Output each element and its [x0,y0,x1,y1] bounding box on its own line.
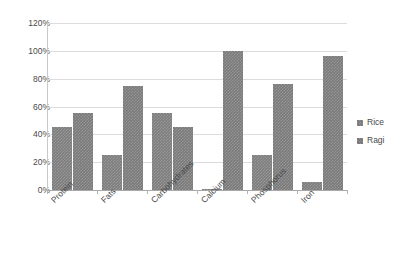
x-tick [347,190,348,194]
gridline [47,79,347,80]
y-tick-label: 0% [4,186,50,195]
chart-legend: RiceRagi [357,118,384,154]
gridline [47,107,347,108]
y-tick-label: 20% [4,158,50,167]
y-tick-label: 40% [4,130,50,139]
legend-swatch-icon [357,138,363,144]
legend-swatch-icon [357,120,363,126]
bar-ragi-calcium [223,51,243,190]
y-tick-label: 100% [4,47,50,56]
x-tick [147,190,148,194]
plot-area [47,23,347,190]
x-tick [197,190,198,194]
y-tick-label: 60% [4,103,50,112]
legend-label: Rice [367,118,384,127]
bar-ragi-protein [73,113,93,190]
y-axis-line [47,23,48,190]
x-tick [297,190,298,194]
y-tick-label: 120% [4,19,50,28]
legend-label: Ragi [367,136,384,145]
bar-chart: 0%20%40%60%80%100%120% ProteinFatsCarboh… [0,0,402,269]
legend-item-rice[interactable]: Rice [357,118,384,127]
legend-item-ragi[interactable]: Ragi [357,136,384,145]
gridline [47,23,347,24]
bar-rice-fats [102,155,122,190]
gridline [47,51,347,52]
x-tick [247,190,248,194]
bar-ragi-fats [123,86,143,190]
y-tick-label: 80% [4,75,50,84]
x-tick [97,190,98,194]
x-tick [47,190,48,194]
bar-ragi-iron [323,56,343,190]
